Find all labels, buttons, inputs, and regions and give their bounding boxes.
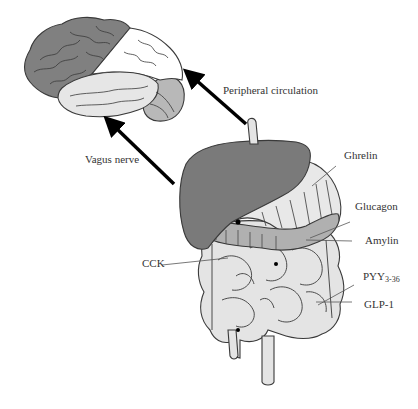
esophagus bbox=[248, 118, 258, 144]
glucagon-label: Glucagon bbox=[355, 200, 398, 212]
pyy-label: PYY3-36 bbox=[363, 270, 400, 284]
amylin-label: Amylin bbox=[365, 234, 399, 246]
ghrelin-label: Ghrelin bbox=[344, 149, 378, 161]
peripheral-circulation-label: Peripheral circulation bbox=[223, 84, 318, 96]
brain bbox=[25, 17, 185, 121]
vagus-nerve-label: Vagus nerve bbox=[85, 153, 139, 165]
gut-brain-diagram: Peripheral circulation Vagus nerve Ghrel… bbox=[0, 0, 418, 409]
appendix bbox=[228, 330, 238, 359]
glp1-label: GLP-1 bbox=[364, 298, 394, 310]
pyy-label-subscript: 3-36 bbox=[385, 275, 400, 284]
pyy-label-main: PYY bbox=[363, 270, 385, 282]
rectum bbox=[262, 336, 274, 385]
digestive-system bbox=[180, 118, 344, 385]
cck-label: CCK bbox=[142, 257, 165, 269]
